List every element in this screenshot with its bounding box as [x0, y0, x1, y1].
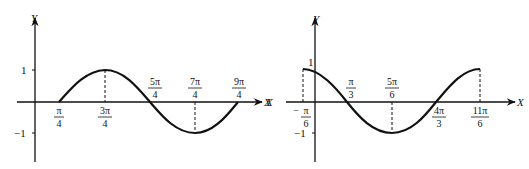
svg-text:9π: 9π — [234, 76, 244, 87]
svg-text:4: 4 — [103, 118, 108, 129]
right-tick-neg-pi6: − π 6 — [293, 105, 311, 129]
svg-text:4: 4 — [153, 89, 158, 100]
svg-text:3π: 3π — [100, 105, 110, 116]
svg-text:6: 6 — [478, 118, 483, 129]
svg-text:−: − — [293, 105, 299, 116]
svg-text:π: π — [348, 76, 353, 87]
svg-text:7π: 7π — [190, 76, 200, 87]
svg-text:4: 4 — [57, 118, 62, 129]
svg-text:3: 3 — [349, 89, 354, 100]
svg-text:π: π — [56, 105, 61, 116]
figure: Y X 1 −1 π 4 3π 4 5π 4 7π 4 — [0, 0, 529, 169]
left-tick-9pi4: 9π 4 — [232, 76, 246, 100]
left-tick-7pi4: 7π 4 — [188, 76, 202, 100]
svg-text:6: 6 — [390, 89, 395, 100]
svg-text:5π: 5π — [150, 76, 160, 87]
right-y-one-label: 1 — [308, 56, 314, 68]
svg-text:5π: 5π — [387, 76, 397, 87]
left-tick-3pi4: 3π 4 — [98, 105, 112, 129]
right-x-axis-label: X — [516, 96, 525, 108]
right-tick-11pi6: 11π 6 — [471, 105, 489, 129]
left-y-neg-one-label: −1 — [14, 127, 26, 139]
right-tick-pi3: π 3 — [346, 76, 356, 100]
right-tick-5pi6: 5π 6 — [385, 76, 399, 100]
svg-text:11π: 11π — [473, 105, 488, 116]
right-tick-4pi3: 4π 3 — [432, 105, 446, 129]
left-tick-5pi4: 5π 4 — [148, 76, 162, 100]
left-tick-pi4: π 4 — [54, 105, 64, 129]
right-y-axis-label: Y — [313, 13, 321, 25]
left-graph: Y X 1 −1 π 4 3π 4 5π 4 7π 4 — [14, 12, 272, 162]
svg-text:4π: 4π — [434, 105, 444, 116]
right-x-axis-left-label: X — [265, 96, 274, 108]
right-graph: X Y X 1 −1 − π 6 π 3 5π 6 — [265, 13, 525, 162]
svg-text:6: 6 — [304, 118, 309, 129]
left-y-one-label: 1 — [21, 64, 27, 76]
left-y-axis-label: Y — [31, 12, 39, 24]
svg-text:3: 3 — [437, 118, 442, 129]
svg-text:π: π — [303, 105, 308, 116]
svg-text:4: 4 — [237, 89, 242, 100]
svg-text:4: 4 — [193, 89, 198, 100]
